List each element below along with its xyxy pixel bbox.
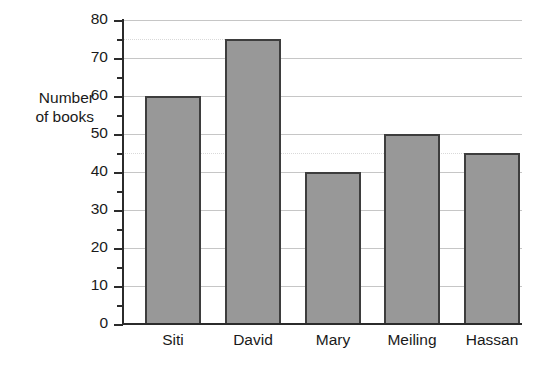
y-tick-major-10 xyxy=(114,286,123,288)
y-tick-minor-5 xyxy=(117,305,123,307)
y-tick-major-50 xyxy=(114,134,123,136)
y-tick-major-30 xyxy=(114,210,123,212)
y-tick-label-60: 60 xyxy=(68,86,108,104)
y-tick-major-60 xyxy=(114,96,123,98)
y-tick-label-80: 80 xyxy=(68,10,108,28)
y-tick-minor-65 xyxy=(117,77,123,79)
x-axis-line xyxy=(122,323,522,325)
gridline-80 xyxy=(123,20,522,21)
bar-meiling xyxy=(384,134,440,325)
y-tick-minor-35 xyxy=(117,191,123,193)
y-tick-minor-25 xyxy=(117,229,123,231)
y-tick-major-40 xyxy=(114,172,123,174)
y-tick-label-30: 30 xyxy=(68,200,108,218)
y-tick-label-10: 10 xyxy=(68,276,108,294)
y-tick-major-70 xyxy=(114,58,123,60)
y-tick-label-70: 70 xyxy=(68,48,108,66)
bar-david xyxy=(225,39,281,325)
y-tick-label-40: 40 xyxy=(68,162,108,180)
bar-chart: Number of books 01020304050607080 SitiDa… xyxy=(0,0,550,366)
plot-area xyxy=(123,20,522,324)
bar-siti xyxy=(145,96,201,325)
y-tick-label-50: 50 xyxy=(68,124,108,142)
y-tick-minor-75 xyxy=(117,39,123,41)
bar-mary xyxy=(305,172,361,325)
y-tick-minor-15 xyxy=(117,267,123,269)
y-tick-major-0 xyxy=(114,324,123,326)
y-tick-minor-55 xyxy=(117,115,123,117)
y-tick-major-20 xyxy=(114,248,123,250)
bar-hassan xyxy=(464,153,520,325)
y-tick-minor-45 xyxy=(117,153,123,155)
gridline-70 xyxy=(123,58,522,59)
y-tick-label-20: 20 xyxy=(68,238,108,256)
x-tick-label-hassan: Hassan xyxy=(442,331,542,349)
y-tick-major-80 xyxy=(114,20,123,22)
y-tick-label-0: 0 xyxy=(68,314,108,332)
